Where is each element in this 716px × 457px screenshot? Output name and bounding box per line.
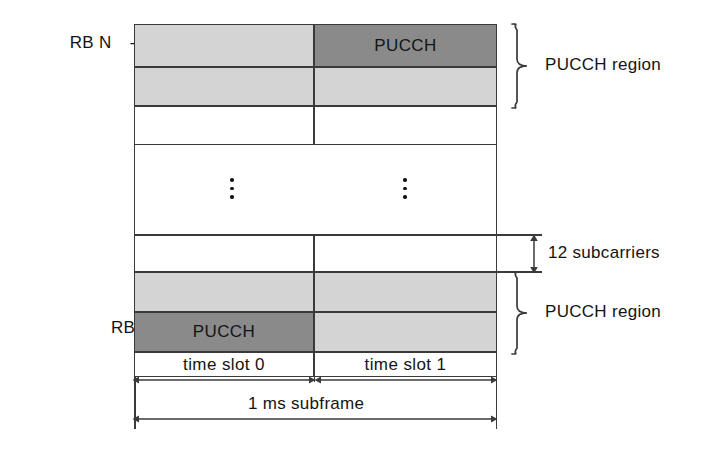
pucch-label-bottom: PUCCH [193,322,255,342]
pucch-region-label-top: PUCCH region [545,55,661,75]
grid-cell-bottom-slot0-pucch: PUCCH [134,312,314,352]
time-slot0-arrow [130,372,320,388]
row-label-top-prefix: RB N [70,33,112,52]
subframe-guide-mid [314,352,316,382]
time-slot1-arrow [312,372,502,388]
grid-cell-second-slot0 [134,67,314,106]
figure-canvas: RB NULRB–1 RB 0 PUCCH PUCCH time slot 0 … [0,0,716,457]
grid-cell-top-slot1-pucch: PUCCH [314,24,497,67]
grid-cell-bottom-slot1 [314,312,497,352]
grid-middle-gap [134,145,497,235]
ellipsis-left [230,178,234,199]
grid-cell-lower-blank-slot0 [134,235,314,272]
brace-pucch-region-bottom [508,270,534,356]
subframe-arrow [130,411,502,427]
subcarriers-label: 12 subcarriers [548,243,660,263]
grid-cell-lower-light-slot0 [134,272,314,312]
brace-pucch-region-top [508,22,534,110]
pucch-label-top: PUCCH [374,36,436,56]
grid-cell-second-slot1 [314,67,497,106]
grid-cell-lower-light-slot1 [314,272,497,312]
grid-cell-top-slot0 [134,24,314,67]
pucch-region-label-bottom: PUCCH region [545,302,661,322]
grid-cell-lower-blank-slot1 [314,235,497,272]
grid-cell-third-slot0 [134,106,314,145]
ellipsis-right [403,178,407,199]
grid-cell-third-slot1 [314,106,497,145]
